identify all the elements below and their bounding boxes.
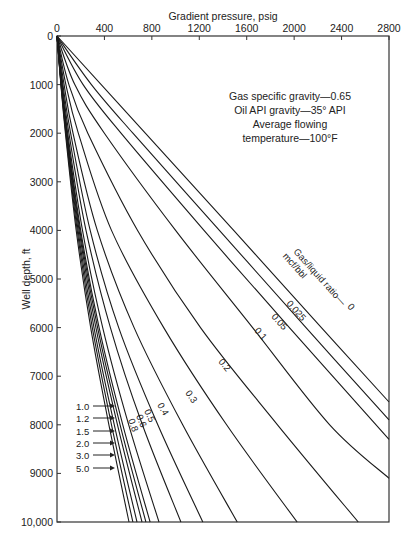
curve-label: 0.025 xyxy=(285,298,309,323)
y-axis-title: Well depth, ft xyxy=(20,248,32,309)
x-axis-title: Gradient pressure, psig xyxy=(168,10,277,22)
x-tick-label: 2000 xyxy=(282,22,306,34)
annotation-oil-gravity: Oil API gravity—35° API xyxy=(234,104,346,116)
curve-label: 0.3 xyxy=(183,388,200,405)
arrow-label: 2.0 xyxy=(76,438,89,449)
arrow-label: 1.0 xyxy=(76,401,89,412)
curve-glr-0.8 xyxy=(57,36,159,522)
y-tick-label: 7000 xyxy=(30,370,54,382)
y-tick-label: 2000 xyxy=(30,127,54,139)
y-tick-label: 1000 xyxy=(30,79,54,91)
arrow-head-icon xyxy=(110,466,115,471)
x-tick-label: 1600 xyxy=(235,22,259,34)
y-tick-label: 4000 xyxy=(30,224,54,236)
arrow-label: 5.0 xyxy=(76,463,89,474)
x-tick-label: 2800 xyxy=(377,22,401,34)
arrow-label: 1.2 xyxy=(76,413,89,424)
x-tick-label: 800 xyxy=(143,22,161,34)
x-tick-label: 2400 xyxy=(330,22,354,34)
curve-label: 0 xyxy=(346,301,358,312)
y-tick-label: 8000 xyxy=(30,419,54,431)
arrow-label: 3.0 xyxy=(76,450,89,461)
curve-label: 0.05 xyxy=(270,311,291,332)
conditions-annotation: Gas specific gravity—0.65 Oil API gravit… xyxy=(229,90,351,144)
curve-label: 0.2 xyxy=(216,356,233,373)
curve-label: 0.1 xyxy=(253,325,270,342)
y-tick-label: 6000 xyxy=(30,322,54,334)
x-tick-label: 400 xyxy=(96,22,114,34)
arrow-label: 1.5 xyxy=(76,426,89,437)
y-tick-label: 5000 xyxy=(30,273,54,285)
curve-label: 0.4 xyxy=(155,401,171,418)
annotation-gas-gravity: Gas specific gravity—0.65 xyxy=(229,90,351,102)
y-tick-label: 3000 xyxy=(30,176,54,188)
annotation-avg-flowing: Average flowing xyxy=(253,118,328,130)
x-axis-ticks: 040080012001600200024002800 xyxy=(54,22,401,40)
x-tick-label: 1200 xyxy=(188,22,212,34)
x-tick-label: 0 xyxy=(54,22,60,34)
y-tick-label: 9000 xyxy=(30,467,54,479)
gradient-curve-chart: Gradient pressure, psig 0400800120016002… xyxy=(0,0,410,535)
y-tick-label: 0 xyxy=(47,30,53,42)
annotation-temperature: temperature—100°F xyxy=(242,132,337,144)
y-tick-label: 10,000 xyxy=(21,516,53,528)
